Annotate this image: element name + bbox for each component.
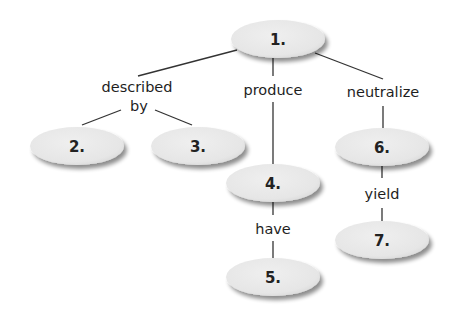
link-label-have: have <box>255 221 291 237</box>
node-7-label: 7. <box>374 232 390 250</box>
node-6-label: 6. <box>374 139 390 157</box>
edge-by-3 <box>155 110 192 125</box>
concept-map-diagram: described by produce neutralize have yie… <box>0 0 467 324</box>
node-6: 6. <box>335 128 429 166</box>
node-2: 2. <box>30 127 124 165</box>
node-3: 3. <box>151 127 245 165</box>
node-1-label: 1. <box>270 31 286 49</box>
link-label-neutralize: neutralize <box>347 84 420 100</box>
node-5-label: 5. <box>265 269 281 287</box>
node-5: 5. <box>226 258 320 296</box>
link-label-by: by <box>130 98 148 114</box>
node-4-label: 4. <box>265 175 281 193</box>
edge-1-described <box>138 50 237 76</box>
edge-by-2 <box>82 110 121 125</box>
node-7: 7. <box>335 221 429 259</box>
link-label-yield: yield <box>365 186 400 202</box>
edge-1-neutralize <box>315 53 383 79</box>
node-2-label: 2. <box>69 138 85 156</box>
nodes: 1. 2. 3. 4. 5. 6. 7. <box>30 20 429 296</box>
link-label-described: described <box>102 79 173 95</box>
node-3-label: 3. <box>190 138 206 156</box>
link-label-produce: produce <box>243 82 302 98</box>
node-1: 1. <box>231 20 325 58</box>
node-4: 4. <box>226 164 320 202</box>
